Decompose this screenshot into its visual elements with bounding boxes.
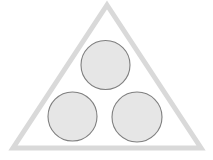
bottom-right-circle [112, 92, 162, 142]
top-circle [81, 41, 130, 90]
figure-canvas [0, 0, 213, 160]
figure-svg [0, 0, 213, 160]
bottom-left-circle [48, 92, 97, 141]
